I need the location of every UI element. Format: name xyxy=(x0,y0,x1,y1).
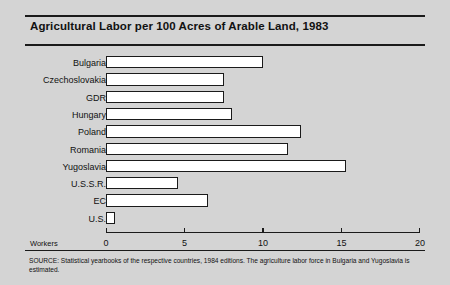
x-axis-tick xyxy=(262,228,263,233)
category-label: Czechoslovakia xyxy=(43,75,106,85)
source-rule xyxy=(25,250,425,251)
x-axis-tick xyxy=(341,228,342,233)
category-label: EC xyxy=(93,196,106,206)
plot-area: BulgariaCzechoslovakiaGDRHungaryPolandRo… xyxy=(8,6,442,279)
category-label: U.S.S.R. xyxy=(71,179,106,189)
category-label: Yugoslavia xyxy=(62,162,106,172)
bar xyxy=(106,91,224,103)
bar xyxy=(106,73,224,85)
category-label: Bulgaria xyxy=(73,58,106,68)
chart-figure: Agricultural Labor per 100 Acres of Arab… xyxy=(0,0,450,285)
category-label: GDR xyxy=(86,93,106,103)
axis-end-cap xyxy=(106,228,107,233)
bar xyxy=(106,143,288,155)
x-axis-tick-label: 0 xyxy=(91,238,121,248)
bar xyxy=(106,212,115,224)
category-label: Poland xyxy=(78,127,106,137)
x-axis-tick-label: 5 xyxy=(170,238,200,248)
bar xyxy=(106,194,208,206)
x-axis-tick-label: 15 xyxy=(327,238,357,248)
x-axis-tick xyxy=(184,228,185,233)
source-note: SOURCE: Statistical yearbooks of the res… xyxy=(29,256,425,274)
chart-panel: Agricultural Labor per 100 Acres of Arab… xyxy=(8,6,442,279)
bar xyxy=(106,125,301,137)
category-label: Romania xyxy=(70,145,106,155)
bar xyxy=(106,108,232,120)
bar xyxy=(106,160,346,172)
bar xyxy=(106,177,178,189)
x-axis-name: Workers xyxy=(30,239,58,248)
bar xyxy=(106,56,263,68)
category-label: U.S. xyxy=(88,214,106,224)
axis-end-cap xyxy=(419,228,420,233)
x-axis-tick-label: 20 xyxy=(405,238,435,248)
x-axis-tick-label: 10 xyxy=(248,238,278,248)
category-label: Hungary xyxy=(72,110,106,120)
